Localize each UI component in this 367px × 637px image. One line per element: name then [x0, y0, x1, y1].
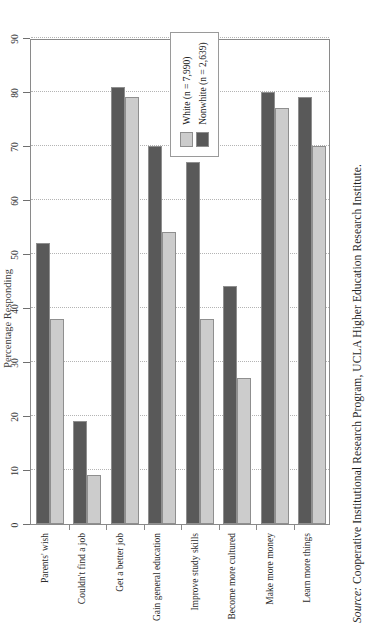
bar-group: Become more cultured: [219, 40, 257, 524]
x-tick-label: 0: [10, 523, 20, 528]
bar: [36, 243, 50, 524]
figure-container: Percentage Responding 010203040506070809…: [0, 0, 367, 637]
category-label: Learn more things: [302, 533, 312, 637]
x-tick: [23, 146, 30, 147]
x-tick: [23, 524, 30, 525]
category-label: Parents' wish: [40, 533, 50, 637]
category-label: Become more cultured: [227, 533, 237, 637]
bar: [298, 97, 312, 524]
legend-label: Nonwhite (n = 2,639): [198, 42, 208, 124]
x-tick-label: 50: [10, 250, 20, 260]
x-tick: [23, 254, 30, 255]
bar: [186, 162, 200, 524]
category-tick: [256, 524, 257, 530]
x-tick-label: 20: [10, 412, 20, 422]
bar: [237, 378, 251, 524]
bar-group: Make more money: [256, 40, 294, 524]
category-label: Improve study skills: [190, 533, 200, 637]
legend-item: White (n = 7,990): [180, 42, 193, 146]
bar-group: Couldn't find a job: [69, 40, 107, 524]
bar: [125, 97, 139, 524]
source-note: Source: Cooperative Institutional Resear…: [351, 13, 363, 623]
legend-swatch: [196, 132, 209, 147]
category-label: Get a better job: [115, 533, 125, 637]
x-tick: [23, 92, 30, 93]
x-tick-label: 30: [10, 358, 20, 368]
bar: [162, 232, 176, 524]
chart-rotator: Percentage Responding 010203040506070809…: [0, 0, 367, 637]
chart-legend: White (n = 7,990)Nonwhite (n = 2,639): [170, 32, 219, 156]
bar: [312, 146, 326, 524]
category-label: Make more money: [265, 533, 275, 637]
x-tick-label: 60: [10, 196, 20, 206]
source-text: Cooperative Institutional Research Progr…: [351, 164, 363, 587]
bar: [261, 92, 275, 524]
bar: [223, 286, 237, 524]
bar: [148, 146, 162, 524]
category-tick: [106, 524, 107, 530]
x-tick: [23, 362, 30, 363]
category-tick: [144, 524, 145, 530]
x-tick-label: 90: [10, 34, 20, 44]
bar: [200, 319, 214, 524]
x-tick-label: 10: [10, 466, 20, 476]
category-tick: [181, 524, 182, 530]
bar: [275, 108, 289, 524]
x-tick-label: 40: [10, 304, 20, 314]
category-tick: [219, 524, 220, 530]
plot-area: Parents' wishCouldn't find a jobGet a be…: [30, 39, 330, 525]
legend-label: White (n = 7,990): [182, 57, 192, 125]
x-tick: [23, 470, 30, 471]
bar: [111, 87, 125, 524]
legend-swatch: [180, 132, 193, 147]
x-tick-label: 80: [10, 88, 20, 98]
bar-group: Parents' wish: [31, 40, 69, 524]
x-tick: [23, 416, 30, 417]
source-prefix: Source:: [351, 587, 363, 623]
bar-group: Learn more things: [294, 40, 332, 524]
category-label: Gain general education: [152, 533, 162, 637]
category-tick: [69, 524, 70, 530]
category-label: Couldn't find a job: [77, 533, 87, 637]
x-tick-label: 70: [10, 142, 20, 152]
x-tick: [23, 308, 30, 309]
category-tick: [294, 524, 295, 530]
bar: [87, 475, 101, 524]
legend-item: Nonwhite (n = 2,639): [196, 42, 209, 146]
x-tick: [23, 38, 30, 39]
bar: [50, 319, 64, 524]
bar: [73, 421, 87, 524]
x-tick: [23, 200, 30, 201]
bar-group: Get a better job: [106, 40, 144, 524]
